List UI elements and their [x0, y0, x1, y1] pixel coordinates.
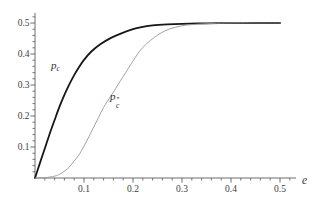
curve-label-pc2-subscript: c — [116, 103, 119, 109]
curve-label-pc: pc — [51, 60, 60, 71]
y-tick-label: 0.1 — [18, 142, 30, 152]
curve-label-pc2-scripts: ″c — [116, 98, 119, 109]
y-tick-label: 0.2 — [18, 111, 30, 121]
y-tick-label: 0.3 — [18, 80, 30, 90]
percolation-probability-plot: 0.10.20.30.40.50.10.20.30.40.5e pc p″c — [0, 0, 315, 204]
y-tick-label: 0.5 — [18, 18, 30, 28]
curve-p_c — [35, 23, 280, 178]
y-tick-label: 0.4 — [18, 49, 30, 59]
x-tick-label: 0.1 — [78, 184, 90, 194]
x-tick-label: 0.2 — [127, 184, 139, 194]
x-tick-label: 0.4 — [225, 184, 237, 194]
curve-p_c_double_prime — [35, 23, 280, 178]
x-axis-label: e — [302, 174, 307, 186]
x-tick-label: 0.5 — [274, 184, 286, 194]
x-tick-label: 0.3 — [176, 184, 188, 194]
curve-label-pc-double-prime: p″c — [110, 91, 119, 109]
curve-label-pc-subscript: c — [57, 64, 60, 73]
curve-label-pc2-base: p — [110, 90, 116, 102]
plot-canvas: 0.10.20.30.40.50.10.20.30.40.5e — [0, 0, 315, 204]
